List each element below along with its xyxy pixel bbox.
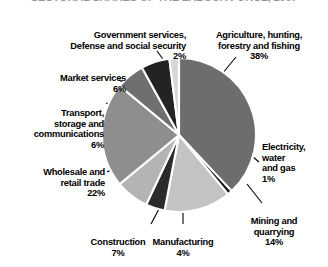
pie-chart-figure: SECTORAL SHARES OF THE LABOUR FORCE, 200… bbox=[0, 0, 328, 267]
label-mining-quarrying-pct: 14% bbox=[232, 237, 316, 248]
label-construction-text: Construction bbox=[91, 237, 146, 247]
label-manufacturing-text: Manufacturing bbox=[153, 237, 214, 247]
chart-title: SECTORAL SHARES OF THE LABOUR FORCE, 200… bbox=[31, 0, 297, 3]
label-agriculture: Agriculture, hunting, forestry and fishi… bbox=[196, 19, 322, 73]
label-agriculture-pct: 38% bbox=[196, 51, 322, 62]
label-government-services-text: Government services, Defense and social … bbox=[70, 30, 186, 51]
label-wholesale-retail-text: Wholesale and retail trade bbox=[43, 167, 105, 188]
label-transport-text: Transport, storage and communications bbox=[34, 108, 104, 140]
label-construction-pct: 7% bbox=[82, 248, 154, 259]
label-market-services-pct: 6% bbox=[14, 84, 126, 95]
label-wholesale-retail: Wholesale and retail trade 22% bbox=[2, 156, 105, 210]
label-construction: Construction 7% bbox=[82, 226, 154, 267]
label-electricity-water-gas-text: Electricity, water and gas bbox=[262, 142, 305, 174]
label-electricity-water-gas-pct: 1% bbox=[262, 174, 324, 185]
label-wholesale-retail-pct: 22% bbox=[2, 188, 105, 199]
label-transport: Transport, storage and communications 6% bbox=[2, 97, 104, 162]
label-agriculture-text: Agriculture, hunting, forestry and fishi… bbox=[216, 30, 302, 51]
label-market-services-text: Market services bbox=[60, 73, 126, 83]
label-government-services-pct: 2% bbox=[6, 51, 186, 62]
chart-title-clipped: SECTORAL SHARES OF THE LABOUR FORCE, 200… bbox=[0, 0, 328, 8]
label-transport-pct: 6% bbox=[2, 140, 104, 151]
label-mining-quarrying: Mining and quarrying 14% bbox=[232, 205, 316, 259]
label-mining-quarrying-text: Mining and quarrying bbox=[251, 216, 298, 237]
label-electricity-water-gas: Electricity, water and gas 1% bbox=[262, 131, 324, 196]
